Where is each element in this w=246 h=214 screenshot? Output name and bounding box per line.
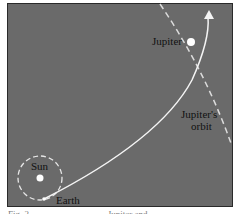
earth-dot (42, 197, 46, 201)
trajectory-diagram (0, 0, 246, 214)
trajectory-arrowhead-icon (204, 10, 214, 19)
figure-caption: Fig. 2 Jupiter and (8, 209, 148, 214)
jupiter-label: Jupiter (152, 35, 182, 47)
jupiters-orbit-label-line2: orbit (191, 120, 212, 132)
sun-label: Sun (31, 160, 48, 172)
jupiter-dot (187, 38, 195, 46)
jupiters-orbit-label-line1: Jupiter's (181, 108, 217, 120)
earth-label: Earth (56, 194, 80, 206)
sun-dot (37, 175, 44, 182)
